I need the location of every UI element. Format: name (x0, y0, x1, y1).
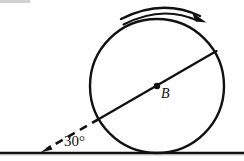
center-point-B (154, 83, 160, 89)
center-label-B: B (161, 87, 170, 101)
dashed-line-arrowhead (41, 145, 53, 153)
angle-label-30-degrees: 30° (64, 134, 85, 149)
geometry-figure: 30° B (0, 0, 244, 161)
figure-canvas (0, 0, 244, 161)
